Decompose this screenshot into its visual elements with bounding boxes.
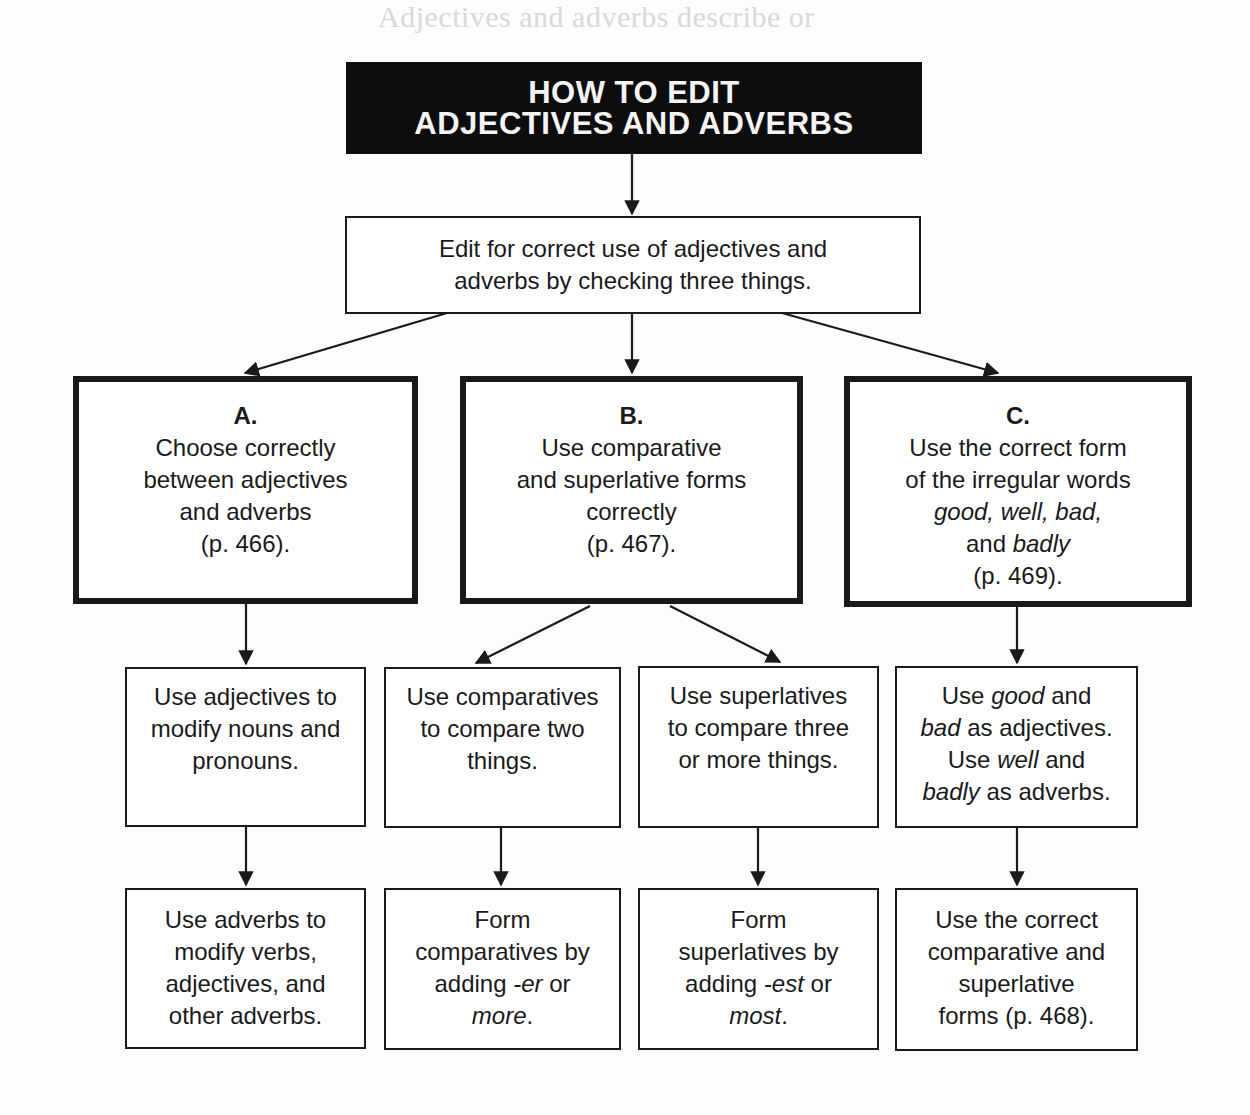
connector-arrows — [0, 0, 1250, 1115]
arrow-intro-to-a — [245, 313, 447, 373]
arrow-intro-to-c — [782, 313, 998, 373]
arrow-b-to-comparatives — [476, 606, 590, 663]
arrow-b-to-superlatives — [670, 606, 780, 662]
